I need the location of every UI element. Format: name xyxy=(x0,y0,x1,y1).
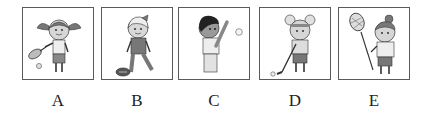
option-a-panel[interactable] xyxy=(22,7,94,80)
girl-playing-tennis-illustration xyxy=(23,8,94,80)
option-e-label: E xyxy=(338,91,410,111)
option-e-panel[interactable] xyxy=(338,7,410,80)
option-a-label: A xyxy=(22,91,94,111)
option-d-label: D xyxy=(259,91,331,111)
golf-ball-icon xyxy=(271,72,275,76)
option-d-panel[interactable] xyxy=(259,7,331,80)
girl-playing-baseball-illustration xyxy=(179,8,250,80)
option-c-panel[interactable] xyxy=(178,7,250,80)
option-c-label: C xyxy=(178,91,250,111)
lacrosse-stick-icon xyxy=(347,11,373,70)
tennis-racket-icon xyxy=(27,47,46,61)
baseball-icon xyxy=(236,29,243,36)
option-b-panel[interactable] xyxy=(101,7,173,80)
girl-playing-golf-illustration xyxy=(260,8,331,80)
option-b-label: B xyxy=(101,91,173,111)
tennis-ball-icon xyxy=(36,63,41,68)
girl-with-lacrosse-stick-illustration xyxy=(339,8,410,80)
girl-with-football-illustration xyxy=(102,8,173,80)
